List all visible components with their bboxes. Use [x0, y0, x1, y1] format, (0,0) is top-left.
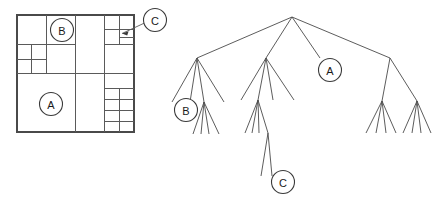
edge-subtree4-left-leaf-2: [376, 101, 382, 133]
decomposition-grid-lines: [17, 15, 134, 132]
edge-subtree4-left-leaf-1: [366, 101, 382, 133]
tree-panel: A B C: [172, 17, 431, 194]
edge-subtree2-deep-leaf-1: [261, 133, 268, 176]
marker-c-callout: C: [122, 9, 167, 36]
quadtree-figure: A B C A: [0, 0, 444, 205]
edge-subtree2-leaf-4: [258, 100, 268, 133]
edge-subtree2-leaf-2: [252, 100, 258, 133]
edge-subtree2-deep-leaf-2: [268, 133, 272, 176]
marker-b-spatial: B: [51, 19, 74, 42]
edge-subtree4-child-2: [390, 58, 417, 101]
edge-root-to-child-4: [292, 17, 390, 58]
figure-root: A B C A: [0, 0, 444, 205]
edge-root-to-child-2: [266, 17, 292, 58]
edge-subtree2-leaf-3: [258, 100, 259, 133]
edge-subtree1-child-4: [197, 58, 224, 102]
marker-c-label: C: [279, 177, 287, 189]
marker-b-tree: B: [175, 99, 198, 122]
edge-subtree2-child-3: [266, 58, 273, 100]
marker-a-label: A: [326, 65, 334, 77]
marker-c-label: C: [151, 15, 159, 27]
marker-a-label: A: [47, 99, 55, 111]
marker-c-leader-line: [122, 23, 145, 34]
tree-edges: [172, 17, 431, 176]
marker-b-label: B: [182, 105, 189, 117]
edge-root-to-child-1: [197, 17, 292, 58]
marker-a-tree: A: [319, 59, 342, 82]
edge-subtree4-child-1: [382, 58, 390, 101]
edge-subtree2-child-4: [266, 58, 294, 100]
edge-subtree1-child-3: [197, 58, 204, 102]
marker-b-label: B: [58, 25, 65, 37]
spatial-decomposition-panel: A B C: [17, 9, 167, 133]
marker-a-spatial: A: [40, 93, 63, 116]
marker-c-tree: C: [272, 171, 295, 194]
edge-subtree2-leaf-1: [245, 100, 258, 133]
